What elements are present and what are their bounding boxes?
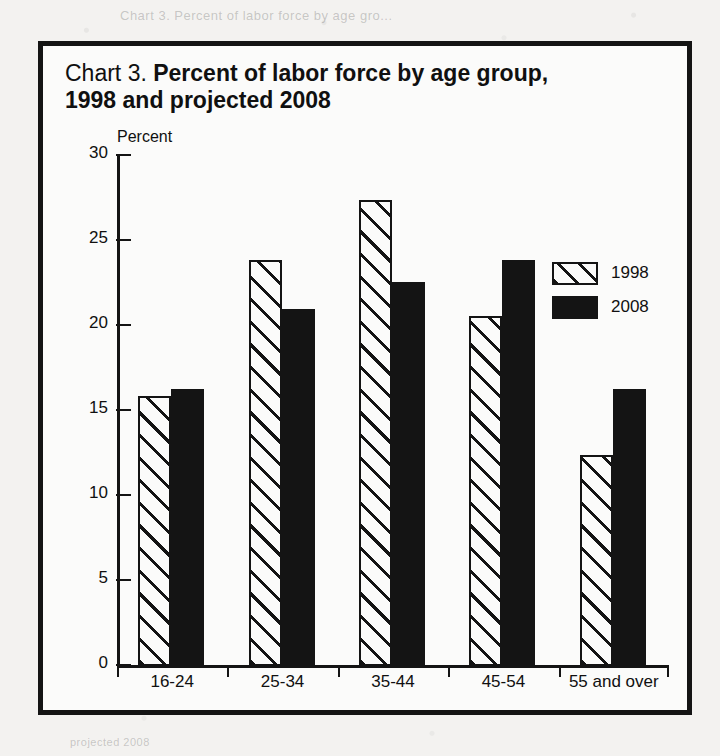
y-axis-title: Percent (117, 128, 172, 146)
legend-label-2008: 2008 (611, 297, 649, 317)
bar-2008-55-and-over (613, 389, 646, 666)
bar-2008-35-44 (392, 282, 425, 666)
legend-swatch-1998 (552, 262, 598, 285)
chart-title-line-2: 1998 and projected 2008 (65, 87, 665, 114)
bar-group (451, 156, 561, 666)
y-tick-label: 10 (72, 483, 108, 503)
bar-1998-16-24 (138, 396, 171, 666)
bar-group (120, 156, 230, 666)
bar-1998-45-54 (469, 316, 502, 666)
legend-item-1998: 1998 (552, 256, 649, 290)
legend-item-2008: 2008 (552, 290, 649, 324)
y-tick-label: 5 (72, 568, 108, 588)
legend-swatch-2008 (552, 296, 598, 319)
chart-title: Chart 3. Percent of labor force by age g… (65, 60, 665, 114)
chart-frame: Chart 3. Percent of labor force by age g… (38, 41, 692, 715)
bar-1998-25-34 (249, 260, 282, 666)
x-axis-ticks-and-labels: 16-2425-3435-4445-5455 and over (117, 666, 669, 688)
ghost-bleed-text-bottom: projected 2008 (70, 736, 150, 747)
chart-legend: 19982008 (552, 256, 649, 324)
bar-2008-45-54 (502, 260, 535, 666)
bar-2008-25-34 (282, 309, 315, 666)
x-axis-label-16-24: 16-24 (117, 672, 227, 692)
bar-2008-16-24 (171, 389, 204, 666)
bar-1998-55-and-over (580, 455, 613, 666)
y-tick-label: 25 (72, 228, 108, 248)
bar-series-container (120, 156, 669, 666)
chart-title-prefix: Chart 3. (65, 60, 147, 86)
y-tick-label: 20 (72, 313, 108, 333)
ghost-bleed-text-top: Chart 3. Percent of labor force by age g… (120, 8, 393, 22)
bar-1998-35-44 (359, 200, 392, 666)
y-tick-label: 15 (72, 398, 108, 418)
x-axis-label-45-54: 45-54 (448, 672, 558, 692)
scanned-page: Chart 3. Percent of labor force by age g… (0, 0, 720, 756)
y-tick-label: 30 (72, 143, 108, 163)
x-axis-label-35-44: 35-44 (338, 672, 448, 692)
plot-canvas: 051015202530 (117, 156, 669, 666)
x-axis-label-55-and-over: 55 and over (559, 672, 669, 692)
y-tick-label: 0 (72, 653, 108, 673)
plot-area: Percent 051015202530 16-2425-3435-4445-5… (65, 128, 675, 688)
bar-group (341, 156, 451, 666)
x-axis-label-25-34: 25-34 (227, 672, 337, 692)
legend-label-1998: 1998 (611, 263, 649, 283)
bar-group (230, 156, 340, 666)
chart-title-main: Percent of labor force by age group, (153, 60, 548, 86)
bar-group (562, 156, 672, 666)
